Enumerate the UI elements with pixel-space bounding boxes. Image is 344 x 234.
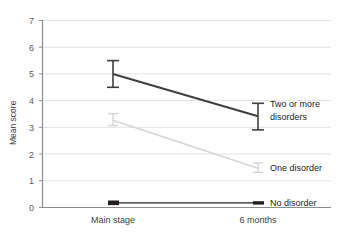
x-category-label-6-months: 6 months <box>239 215 277 225</box>
mean-score-line-chart: 7 6 5 4 3 2 1 0 Mean score Main stage 6 … <box>0 0 344 234</box>
y-tick-label-7: 7 <box>29 16 34 26</box>
y-tick-label-3: 3 <box>29 123 34 133</box>
y-axis-title: Mean score <box>8 100 18 145</box>
y-tick-label-1: 1 <box>29 176 34 186</box>
legend-label-two-or-more-line2: disorders <box>270 112 308 122</box>
y-tick-label-5: 5 <box>29 69 34 79</box>
legend-label-two-or-more-line1: Two or more <box>270 99 320 109</box>
errorbar-no-disorder-main-stage <box>108 201 119 206</box>
legend-label-no-disorder: No disorder <box>270 198 317 208</box>
legend-label-one-disorder: One disorder <box>270 163 322 173</box>
y-tick-label-6: 6 <box>29 43 34 53</box>
chart-container: 7 6 5 4 3 2 1 0 Mean score Main stage 6 … <box>0 0 344 234</box>
y-tick-label-0: 0 <box>29 203 34 213</box>
y-tick-label-2: 2 <box>29 150 34 160</box>
errorbar-no-disorder-6-months <box>253 201 264 204</box>
x-category-label-main-stage: Main stage <box>91 215 135 225</box>
y-tick-label-4: 4 <box>29 96 34 106</box>
